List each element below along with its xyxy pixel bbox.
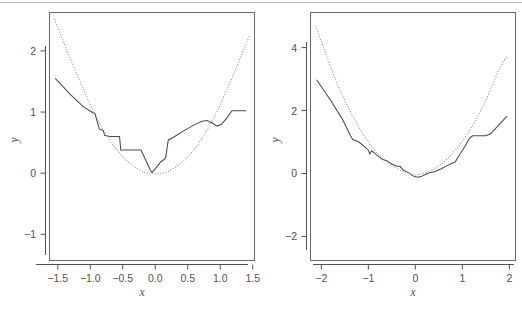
- right-x-tick-label: −1: [362, 272, 374, 284]
- left-y-tick-label: −1: [24, 228, 36, 240]
- left-y-tick-label: 2: [30, 45, 36, 57]
- right-x-axis-title: x: [409, 286, 416, 298]
- right-x-tick-label: −2: [315, 272, 327, 284]
- left-plot-frame: [50, 13, 255, 261]
- right-x-tick-label: 2: [506, 272, 512, 284]
- left-x-tick-label: −0.5: [112, 272, 133, 284]
- right-y-tick-labels: −2024: [285, 42, 297, 243]
- right-y-tick-label: −2: [285, 230, 297, 242]
- left-plot-svg: −1012 −1.5−1.0−0.50.00.51.01.5 x y: [0, 0, 261, 311]
- left-x-tick-label: 0.0: [148, 272, 163, 284]
- left-y-tick-label: 0: [30, 167, 36, 179]
- right-true-quadratic: [316, 26, 507, 175]
- left-x-tick-label: −1.5: [47, 272, 68, 284]
- right-plot-frame: [311, 13, 516, 261]
- left-x-tick-label: 0.5: [180, 272, 195, 284]
- right-series-group: [316, 26, 507, 177]
- right-plot-svg: −2024 −2−1012 x y: [261, 0, 522, 311]
- right-fitted-step-curve: [317, 80, 507, 178]
- left-x-ticks: [58, 265, 253, 270]
- left-series-group: [55, 19, 250, 174]
- right-y-tick-label: 2: [291, 105, 297, 117]
- left-x-tick-label: 1.5: [245, 272, 260, 284]
- left-x-tick-labels: −1.5−1.0−0.50.00.51.01.5: [47, 272, 260, 284]
- right-y-axis-title: y: [269, 137, 282, 144]
- right-x-tick-label: 0: [412, 272, 418, 284]
- left-x-axis-title: x: [138, 286, 145, 298]
- left-true-quadratic: [55, 19, 250, 174]
- right-y-tick-label: 0: [291, 167, 297, 179]
- right-y-tick-label: 4: [291, 42, 297, 54]
- left-x-tick-label: −1.0: [80, 272, 101, 284]
- right-y-ticks: [302, 48, 307, 237]
- left-x-tick-label: 1.0: [213, 272, 228, 284]
- right-plot: −2024 −2−1012 x y: [261, 0, 522, 311]
- left-fitted-step-curve: [55, 78, 246, 172]
- left-y-tick-labels: −1012: [24, 45, 36, 240]
- left-y-tick-label: 1: [30, 106, 36, 118]
- right-x-ticks: [321, 265, 509, 270]
- figure-container: −1012 −1.5−1.0−0.50.00.51.01.5 x y −2024: [0, 0, 522, 311]
- right-x-tick-label: 1: [459, 272, 465, 284]
- left-y-axis-title: y: [8, 137, 21, 144]
- right-x-tick-labels: −2−1012: [315, 272, 512, 284]
- left-plot: −1012 −1.5−1.0−0.50.00.51.01.5 x y: [0, 0, 261, 311]
- left-y-ticks: [41, 51, 46, 234]
